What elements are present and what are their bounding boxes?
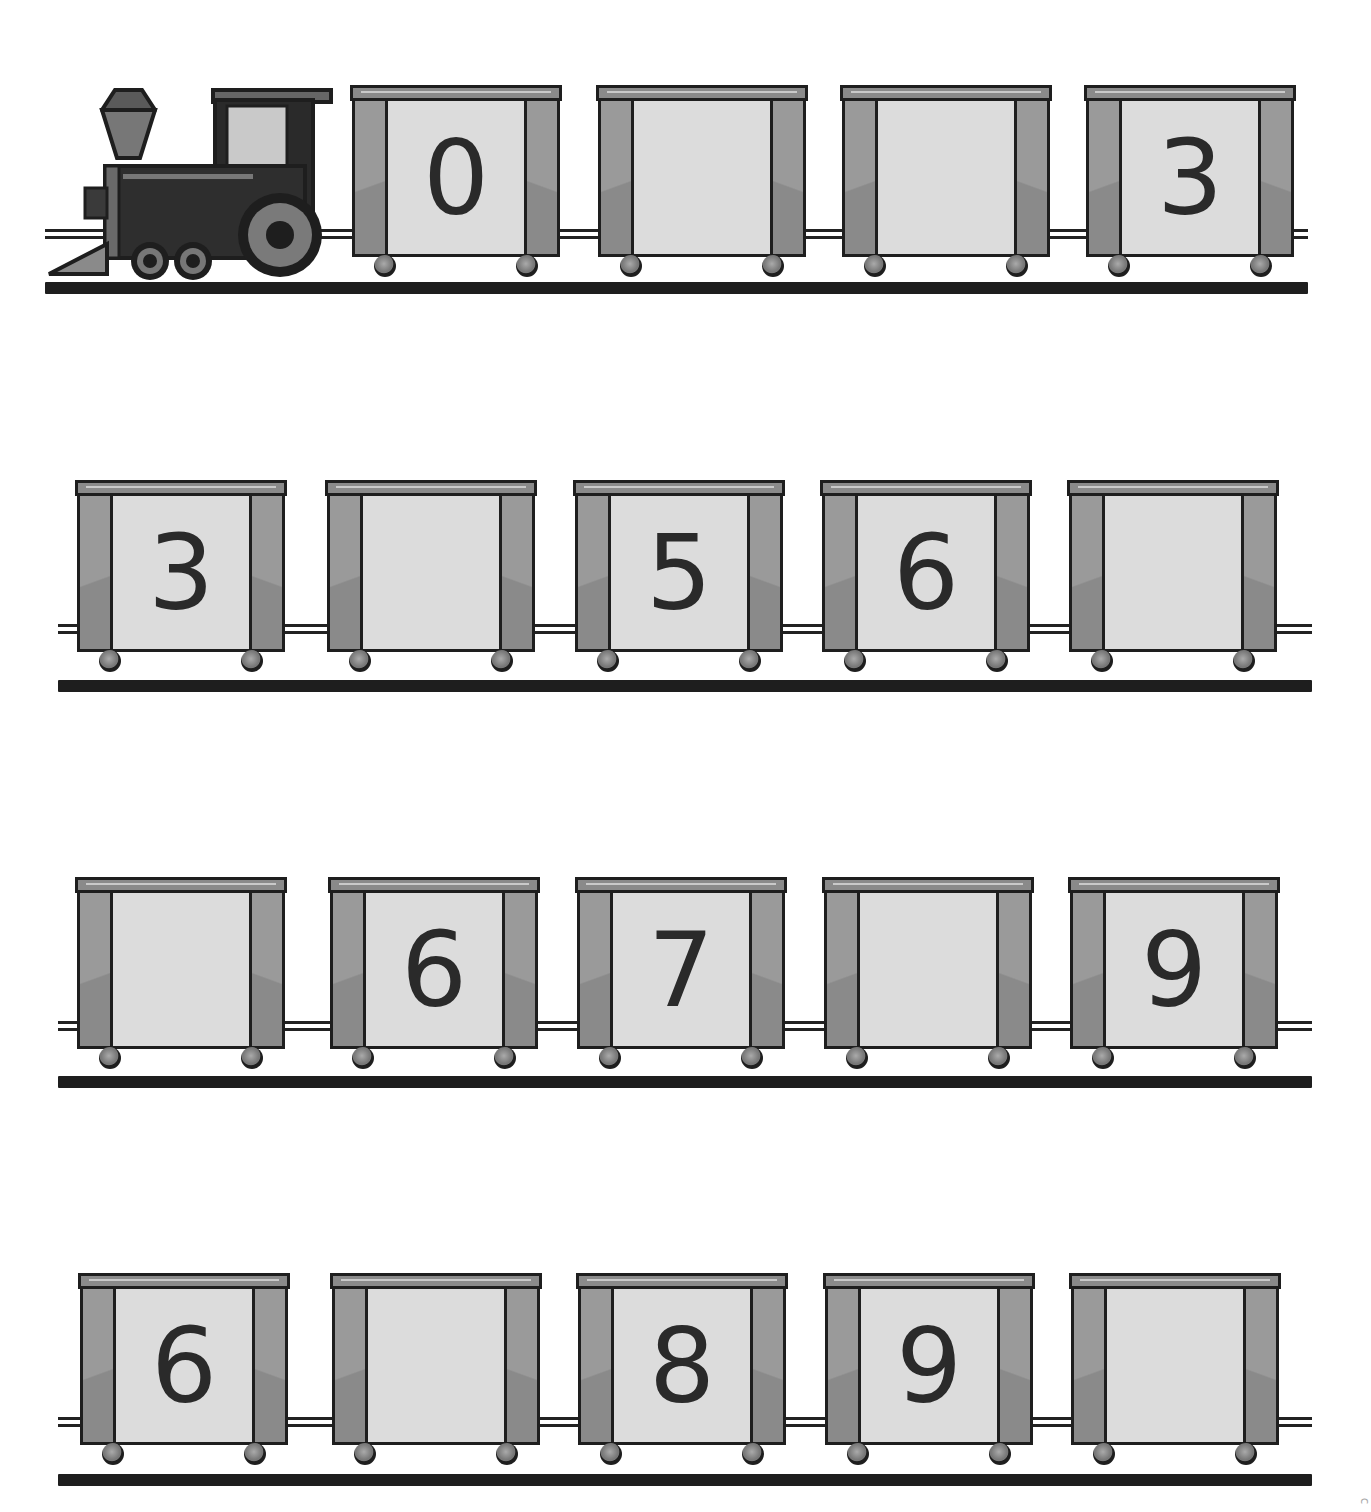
train-car <box>1069 1273 1281 1445</box>
car-post-left <box>1073 893 1106 1046</box>
number-panel: 6 <box>858 496 994 649</box>
wheel-icon <box>496 1443 518 1465</box>
car-post-right <box>996 893 1029 1046</box>
train-car <box>330 1273 542 1445</box>
car-body <box>824 890 1032 1049</box>
train-row-4: 689 <box>0 0 1371 240</box>
car-body: 7 <box>577 890 785 1049</box>
car-body <box>1071 1286 1279 1445</box>
car-number: 9 <box>896 1314 962 1418</box>
wheel-icon <box>491 650 513 672</box>
car-body <box>1069 493 1277 652</box>
car-post-right <box>750 1289 783 1442</box>
rail-track <box>58 1474 1312 1486</box>
blank-number-panel[interactable] <box>368 1289 504 1442</box>
car-post-left <box>1074 1289 1107 1442</box>
car-post-left <box>581 1289 614 1442</box>
wheel-icon <box>1093 1443 1115 1465</box>
wheel-icon <box>99 650 121 672</box>
wheel-icon <box>349 650 371 672</box>
wheel-icon <box>354 1443 376 1465</box>
blank-number-panel[interactable] <box>1105 496 1241 649</box>
car-post-right <box>1242 893 1275 1046</box>
wheel-icon <box>739 650 761 672</box>
car-number: 6 <box>893 521 959 625</box>
car-post-left <box>333 893 366 1046</box>
train-car: 6 <box>328 877 540 1049</box>
car-body <box>332 1286 540 1445</box>
wheel-icon <box>1006 255 1028 277</box>
number-panel: 6 <box>116 1289 252 1442</box>
wheel-icon <box>600 1443 622 1465</box>
wheel-icon <box>102 1443 124 1465</box>
car-post-right <box>994 496 1027 649</box>
train-car: 9 <box>823 1273 1035 1445</box>
wheel-icon <box>1233 650 1255 672</box>
rail-track <box>58 1076 1312 1088</box>
wheel-icon <box>986 650 1008 672</box>
car-body: 8 <box>578 1286 786 1445</box>
wheel-icon <box>1234 1047 1256 1069</box>
car-number: 6 <box>151 1314 217 1418</box>
car-post-right <box>502 893 535 1046</box>
car-post-right <box>252 1289 285 1442</box>
blank-number-panel[interactable] <box>113 893 249 1046</box>
wheel-icon <box>241 1047 263 1069</box>
number-panel: 7 <box>613 893 749 1046</box>
wheel-icon <box>1108 255 1130 277</box>
blank-number-panel[interactable] <box>1107 1289 1243 1442</box>
train-car: 9 <box>1068 877 1280 1049</box>
train-car: 8 <box>576 1273 788 1445</box>
blank-number-panel[interactable] <box>860 893 996 1046</box>
car-post-left <box>825 496 858 649</box>
wheel-icon <box>844 650 866 672</box>
car-body: 6 <box>80 1286 288 1445</box>
car-body: 9 <box>825 1286 1033 1445</box>
train-car: 7 <box>575 877 787 1049</box>
number-panel: 3 <box>113 496 249 649</box>
car-post-right <box>1241 496 1274 649</box>
car-body: 9 <box>1070 890 1278 1049</box>
car-number: 3 <box>148 521 214 625</box>
wheel-icon <box>516 255 538 277</box>
train-car <box>75 877 287 1049</box>
train-car: 6 <box>820 480 1032 652</box>
car-post-left <box>827 893 860 1046</box>
wheel-icon <box>599 1047 621 1069</box>
wheel-icon <box>864 255 886 277</box>
car-post-right <box>1243 1289 1276 1442</box>
car-post-left <box>828 1289 861 1442</box>
wheel-icon <box>352 1047 374 1069</box>
train-car: 3 <box>75 480 287 652</box>
wheel-icon <box>1250 255 1272 277</box>
car-post-right <box>749 893 782 1046</box>
blank-number-panel[interactable] <box>363 496 499 649</box>
rail-track <box>58 680 1312 692</box>
car-post-right <box>499 496 532 649</box>
car-post-left <box>330 496 363 649</box>
wheel-icon <box>1235 1443 1257 1465</box>
wheel-icon <box>1092 1047 1114 1069</box>
train-car <box>1067 480 1279 652</box>
car-body <box>77 890 285 1049</box>
car-post-left <box>580 893 613 1046</box>
car-number: 5 <box>646 521 712 625</box>
train-car: 5 <box>573 480 785 652</box>
car-post-left <box>578 496 611 649</box>
wheel-icon <box>741 1047 763 1069</box>
car-post-right <box>249 893 282 1046</box>
car-post-right <box>997 1289 1030 1442</box>
car-body: 6 <box>330 890 538 1049</box>
train-car: 6 <box>78 1273 290 1445</box>
number-panel: 6 <box>366 893 502 1046</box>
car-post-right <box>747 496 780 649</box>
train-car <box>325 480 537 652</box>
car-body: 3 <box>77 493 285 652</box>
car-number: 7 <box>648 918 714 1022</box>
number-panel: 8 <box>614 1289 750 1442</box>
car-post-left <box>1072 496 1105 649</box>
wheel-icon <box>597 650 619 672</box>
car-post-left <box>335 1289 368 1442</box>
car-body <box>327 493 535 652</box>
wheel-icon <box>99 1047 121 1069</box>
